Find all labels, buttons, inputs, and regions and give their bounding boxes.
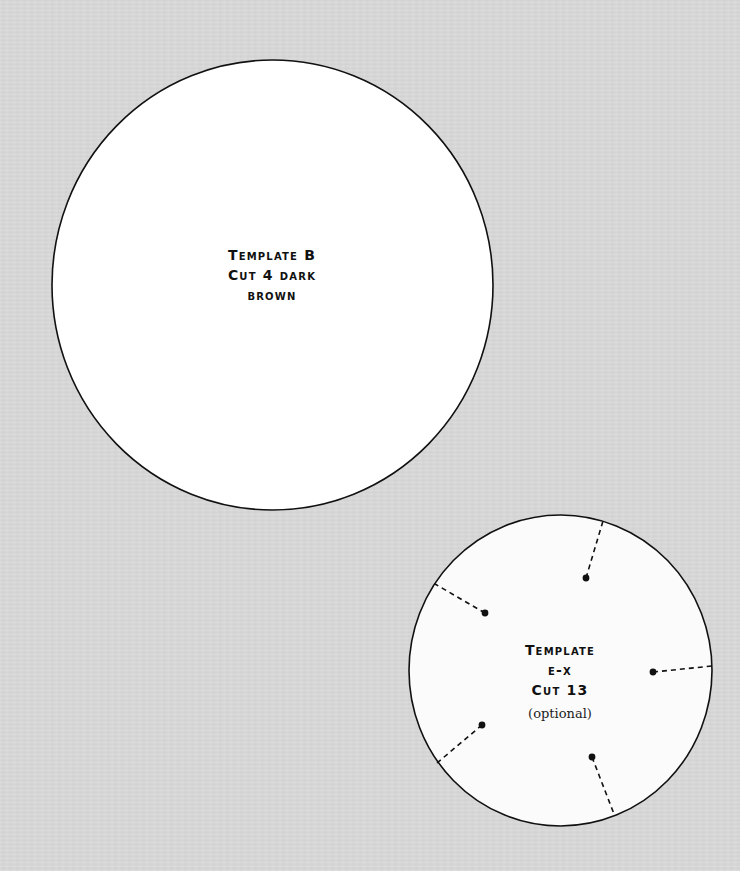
dot-icon: [650, 669, 657, 676]
dot-icon: [583, 575, 590, 582]
template-e-x-label: Template e-x Cut 13 (optional): [500, 640, 620, 723]
template-canvas: [0, 0, 740, 871]
dot-icon: [482, 610, 489, 617]
dot-icon: [479, 722, 486, 729]
dot-icon: [589, 754, 596, 761]
template-b-cut: Cut 4 dark: [172, 265, 372, 285]
template-b-title: Template B: [172, 245, 372, 265]
template-b-color: brown: [172, 285, 372, 305]
template-e-x-title: Template: [500, 640, 620, 660]
template-e-x-cut: Cut 13: [500, 680, 620, 700]
template-e-x-note: (optional): [500, 705, 620, 723]
template-e-x-code: e-x: [500, 660, 620, 680]
template-b-label: Template B Cut 4 dark brown: [172, 245, 372, 305]
